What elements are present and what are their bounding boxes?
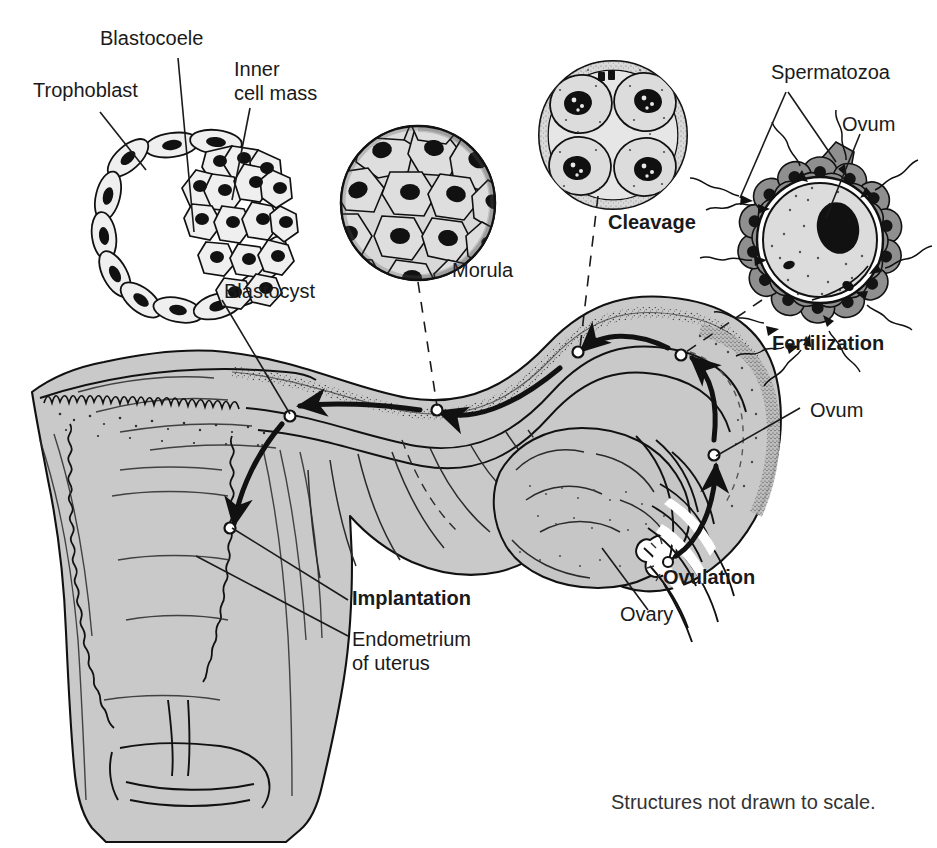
label-ovum-tube: Ovum <box>810 398 863 422</box>
label-fertilization: Fertilization <box>772 331 884 355</box>
marker-blastocyst-site <box>285 411 296 422</box>
anatomical-illustration <box>0 0 937 848</box>
label-ovulation: Ovulation <box>663 565 755 589</box>
marker-implantation-site <box>225 523 236 534</box>
label-morula: Morula <box>452 258 513 282</box>
label-trophoblast: Trophoblast <box>33 78 138 102</box>
label-spermatozoa: Spermatozoa <box>771 60 890 84</box>
cleavage-inset <box>539 61 687 209</box>
marker-morula-site <box>432 405 443 416</box>
label-cleavage: Cleavage <box>608 210 696 234</box>
label-endometrium-line2: of uterus <box>352 651 430 675</box>
ovum-cytoplasm <box>763 183 877 297</box>
label-ovary: Ovary <box>620 602 673 626</box>
label-inner-cell-mass-line1: Inner <box>234 57 280 81</box>
diagram-canvas: Trophoblast Blastocoele Inner cell mass … <box>0 0 937 848</box>
marker-fertilization-site <box>676 350 687 361</box>
label-blastocoele: Blastocoele <box>100 26 203 50</box>
label-endometrium-line1: Endometrium <box>352 627 471 651</box>
label-implantation: Implantation <box>352 586 471 610</box>
figure-caption: Structures not drawn to scale. <box>611 791 876 814</box>
label-ovum-top: Ovum <box>842 112 895 136</box>
label-inner-cell-mass-line2: cell mass <box>234 81 317 105</box>
marker-cleavage-site <box>573 347 584 358</box>
label-blastocyst: Blastocyst <box>224 279 315 303</box>
